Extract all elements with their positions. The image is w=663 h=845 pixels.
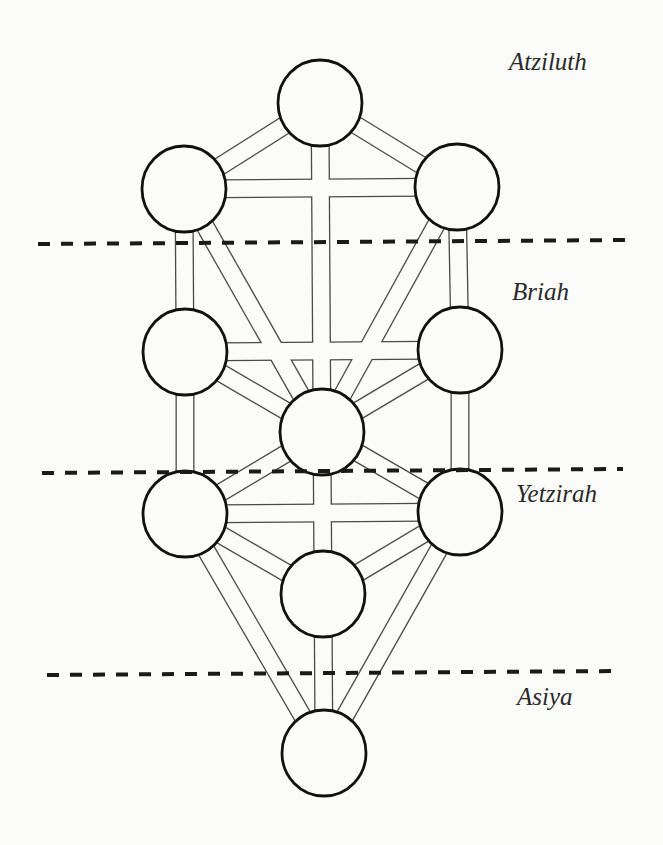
world-label-atziluth: Atziluth [507,48,587,75]
path-kether-tiferet [320,103,322,432]
world-label-yetzirah: Yetzirah [516,480,597,507]
sephirah-geburah [143,309,227,395]
sephirah-binah [142,146,226,232]
sephirah-tiferet [280,389,364,475]
world-label-asiya: Asiya [515,683,573,710]
sephirah-chesed [418,307,502,393]
tree-of-life-diagram: Atziluth Briah Yetzirah Asiya [0,0,663,845]
sephirah-kether [278,60,362,146]
world-labels: Atziluth Briah Yetzirah Asiya [507,48,597,710]
world-label-briah: Briah [512,278,569,305]
sephirah-hod [143,471,227,557]
divider-atziluth-briah [38,240,627,244]
sephirah-malkuth [282,710,366,796]
divider-yetzirah-asiya [47,671,619,675]
sephirah-chokmah [415,144,499,230]
sephirah-yesod [281,551,365,637]
sephirah-netzach [418,469,502,555]
